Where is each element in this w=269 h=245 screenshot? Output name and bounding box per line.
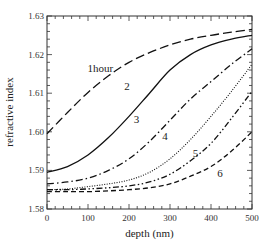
y-tick-label: 1.59 (28, 165, 44, 175)
curve-3 (47, 49, 252, 184)
x-tick-label: 500 (245, 213, 259, 223)
x-tick-label: 200 (122, 213, 136, 223)
y-axis-label: refractive index (3, 77, 15, 147)
curve-2 (47, 35, 252, 172)
y-tick-label: 1.58 (28, 204, 44, 214)
curve-label: 4 (162, 130, 168, 142)
y-tick-label: 1.62 (28, 50, 44, 60)
x-tick-label: 100 (81, 213, 95, 223)
x-axis-label: depth (nm) (125, 227, 174, 240)
y-tick-label: 1.60 (28, 127, 44, 137)
curve-1hour (47, 30, 252, 134)
curve-label: 2 (124, 80, 130, 92)
line-chart: 1.581.591.601.611.621.63 010020030040050… (0, 0, 269, 245)
x-tick-label: 400 (204, 213, 218, 223)
x-axis-tick-labels: 0100200300400500 (45, 213, 260, 223)
curve-label: 3 (134, 113, 140, 125)
y-axis-tick-labels: 1.581.591.601.611.621.63 (28, 11, 44, 214)
curve-labels: 1hour23456 (87, 62, 223, 179)
curve-label: 1hour (87, 62, 113, 74)
curve-label: 6 (217, 167, 223, 179)
y-tick-label: 1.61 (28, 88, 44, 98)
x-tick-label: 300 (163, 213, 177, 223)
x-tick-label: 0 (45, 213, 50, 223)
y-tick-label: 1.63 (28, 11, 44, 21)
curve-label: 5 (193, 147, 199, 159)
